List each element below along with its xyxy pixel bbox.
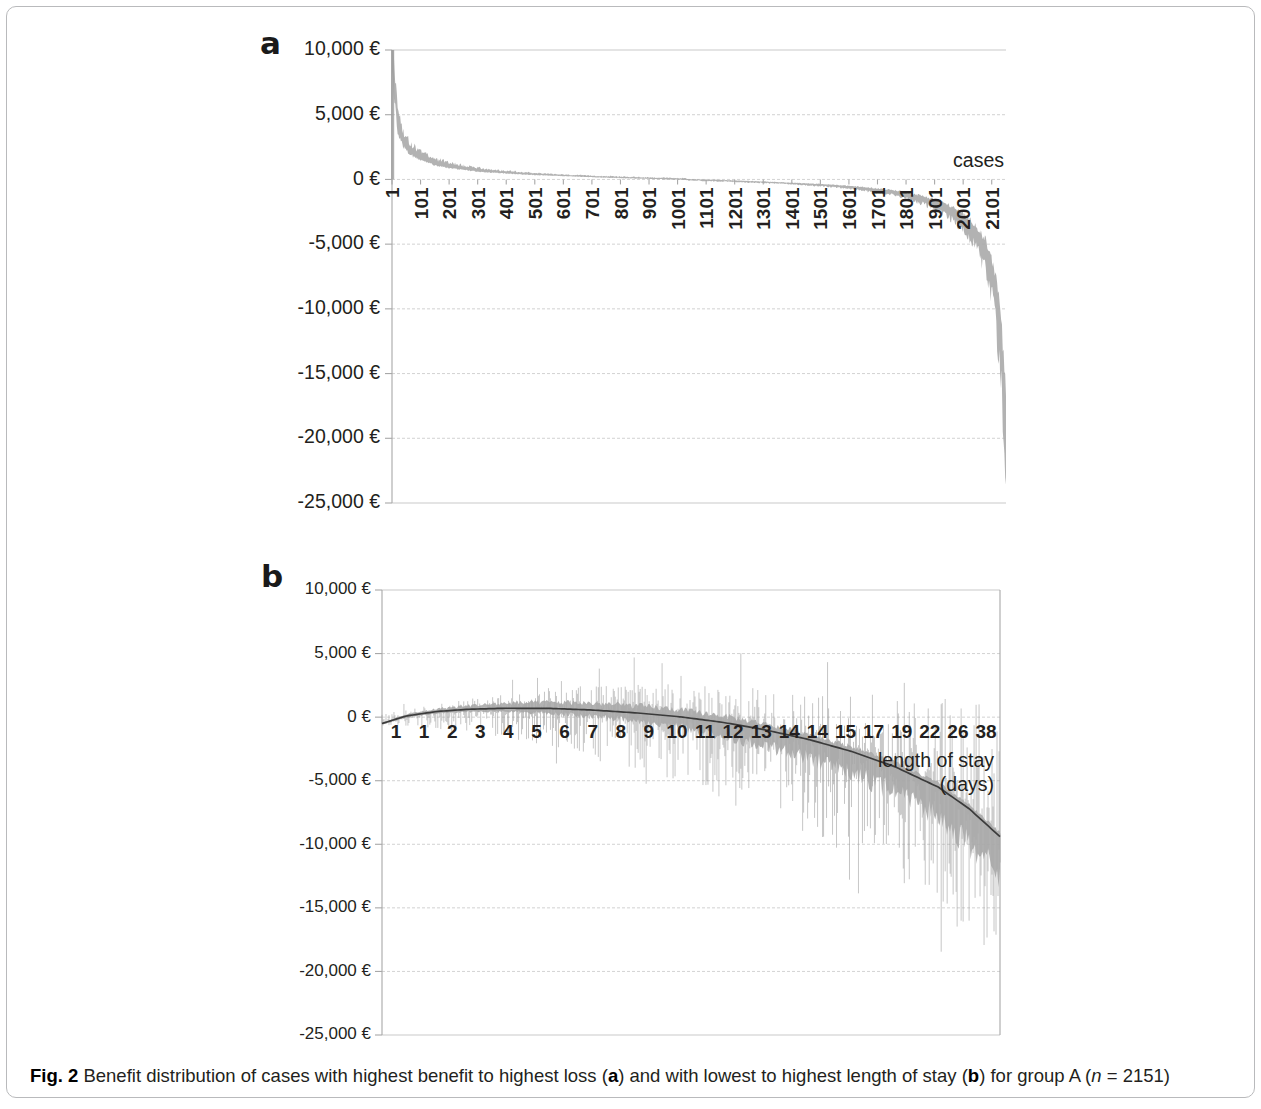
caption-part-1: Benefit distribution of cases with highe…: [78, 1065, 608, 1086]
x-axis-tick-label: 1701: [868, 187, 889, 230]
x-axis-tick-label: 401: [496, 187, 517, 219]
chart-panel-b: 10,000 €5,000 €0 €-5,000 €-10,000 €-15,0…: [0, 560, 1060, 1060]
x-axis-tick-label: 301: [468, 187, 489, 219]
panel-a-svg: 10,000 €5,000 €0 €-5,000 €-10,000 €-15,0…: [0, 22, 1060, 532]
x-axis-tick-label: 6: [559, 721, 570, 742]
x-axis-tick-label: 10: [666, 721, 687, 742]
caption-ref-a: a: [608, 1065, 618, 1086]
caption-figure-number: Fig. 2: [30, 1065, 78, 1086]
x-axis-tick-label: 26: [947, 721, 968, 742]
caption-n-symbol: n: [1091, 1065, 1101, 1086]
y-axis-tick-label: 5,000 €: [314, 643, 371, 662]
caption-part-2: ) and with lowest to highest length of s…: [618, 1065, 968, 1086]
x-axis-tick-label: 501: [525, 187, 546, 219]
x-axis-tick-label: 1001: [668, 187, 689, 230]
x-axis-tick-label: 22: [919, 721, 940, 742]
x-axis-tick-label: 8: [616, 721, 627, 742]
caption-part-3: ) for group A (: [979, 1065, 1091, 1086]
x-axis-title-cases: cases: [953, 149, 1004, 171]
x-axis-tick-label: 17: [863, 721, 884, 742]
x-axis-tick-label: 2: [447, 721, 458, 742]
x-axis-tick-label: 3: [475, 721, 486, 742]
x-axis-tick-label: 1501: [810, 187, 831, 230]
y-axis-tick-label: 0 €: [353, 167, 380, 189]
x-axis-tick-label: 901: [639, 187, 660, 219]
x-axis-tick-label: 1401: [782, 187, 803, 230]
x-axis-tick-label: 9: [644, 721, 655, 742]
x-axis-tick-label: 201: [439, 187, 460, 219]
y-axis-tick-label: -10,000 €: [299, 834, 371, 853]
x-axis-tick-label: 1: [419, 721, 430, 742]
panel-a-peak-spike: [391, 50, 394, 179]
x-axis-tick-label: 1901: [925, 187, 946, 230]
x-axis-tick-label: 101: [411, 187, 432, 219]
panel-a-data-area: [392, 50, 1006, 485]
figure-container: a b 10,000 €5,000 €0 €-5,000 €-10,000 €-…: [0, 0, 1261, 1109]
x-axis-tick-label: 11: [695, 721, 716, 742]
chart-panel-a: 10,000 €5,000 €0 €-5,000 €-10,000 €-15,0…: [0, 22, 1060, 532]
y-axis-tick-label: -10,000 €: [298, 296, 381, 318]
x-axis-tick-label: 1: [391, 721, 402, 742]
x-axis-title-length-of-stay: length of stay: [878, 749, 994, 771]
x-axis-tick-label: 12: [723, 721, 744, 742]
x-axis-tick-label: 15: [835, 721, 857, 742]
y-axis-tick-label: -20,000 €: [299, 961, 371, 980]
y-axis-tick-label: -15,000 €: [299, 897, 371, 916]
x-axis-tick-label: 1801: [896, 187, 917, 230]
y-axis-tick-label: -15,000 €: [298, 361, 381, 383]
y-axis-tick-label: -25,000 €: [299, 1024, 371, 1043]
x-axis-tick-label: 2001: [953, 187, 974, 230]
caption-ref-b: b: [968, 1065, 979, 1086]
x-axis-tick-label: 38: [975, 721, 996, 742]
x-axis-tick-label: 19: [891, 721, 912, 742]
x-axis-tick-label: 1201: [725, 187, 746, 230]
x-axis-tick-label: 7: [587, 721, 598, 742]
x-axis-title-unit-days: (days): [940, 773, 994, 795]
y-axis-tick-label: -20,000 €: [298, 425, 381, 447]
panel-b-case-spikes: [382, 653, 1000, 951]
y-axis-tick-label: 5,000 €: [315, 102, 380, 124]
y-axis-tick-label: -25,000 €: [298, 490, 381, 512]
y-axis-tick-label: 10,000 €: [304, 37, 380, 59]
x-axis-tick-label: 1: [382, 187, 403, 198]
figure-caption: Fig. 2 Benefit distribution of cases wit…: [30, 1064, 1235, 1088]
x-axis-tick-label: 701: [582, 187, 603, 219]
x-axis-tick-label: 1101: [696, 187, 717, 229]
x-axis-tick-label: 4: [503, 721, 514, 742]
x-axis-tick-label: 5: [531, 721, 542, 742]
x-axis-tick-label: 801: [611, 187, 632, 219]
x-axis-tick-label: 1301: [753, 187, 774, 230]
x-axis-tick-label: 14: [807, 721, 829, 742]
y-axis-tick-label: 10,000 €: [305, 579, 372, 598]
panel-b-svg: 10,000 €5,000 €0 €-5,000 €-10,000 €-15,0…: [0, 560, 1060, 1060]
x-axis-tick-label: 1601: [839, 187, 860, 230]
y-axis-tick-label: 0 €: [347, 707, 371, 726]
y-axis-tick-label: -5,000 €: [308, 231, 380, 253]
x-axis-tick-label: 601: [553, 187, 574, 219]
x-axis-tick-label: 14: [779, 721, 801, 742]
caption-part-4: = 2151): [1102, 1065, 1170, 1086]
y-axis-tick-label: -5,000 €: [309, 770, 372, 789]
x-axis-tick-label: 13: [751, 721, 772, 742]
x-axis-tick-label: 2101: [982, 187, 1003, 230]
